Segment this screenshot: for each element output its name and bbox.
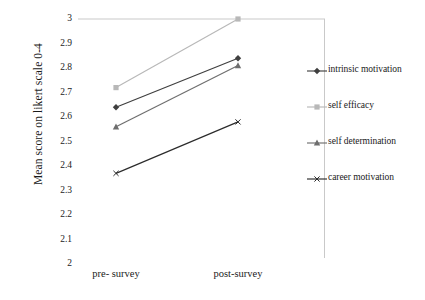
y-tick-label: 2.3	[38, 186, 72, 196]
y-tick-label: 2.1	[38, 235, 72, 245]
plot-area	[78, 0, 343, 300]
legend-marker-icon	[306, 99, 328, 111]
data-point-marker	[235, 55, 241, 61]
legend-marker-icon	[306, 135, 328, 147]
y-tick-label: 2.5	[38, 137, 72, 147]
y-tick-label: 2.8	[38, 63, 72, 73]
y-tick-label: 2.7	[38, 88, 72, 98]
y-tick-label: 2.2	[38, 210, 72, 220]
data-point-marker	[113, 171, 118, 176]
legend-marker-icon	[306, 171, 328, 183]
y-axis-tick-labels: 32.92.82.72.62.52.42.32.22.12	[38, 0, 72, 300]
series-career-motivation	[113, 119, 240, 176]
legend-label: self determination	[328, 136, 396, 146]
data-point-marker	[113, 123, 119, 129]
data-point-marker	[235, 119, 240, 124]
y-tick-label: 3	[38, 14, 72, 24]
data-point-marker	[314, 67, 320, 73]
x-tick-label: post-survey	[214, 268, 263, 279]
series-line	[116, 19, 238, 88]
legend-label: career motivation	[328, 172, 394, 182]
plot-svg	[78, 0, 343, 300]
data-point-marker	[314, 104, 319, 109]
x-tick-label: pre- survey	[92, 268, 140, 279]
chart-figure: Mean score on likert scale 0-4 32.92.82.…	[0, 0, 425, 300]
data-point-marker	[235, 62, 241, 68]
y-tick-label: 2.9	[38, 39, 72, 49]
y-tick-label: 2.6	[38, 112, 72, 122]
series-self-efficacy	[113, 16, 240, 90]
legend-item[interactable]: self efficacy	[306, 92, 425, 117]
series-intrinsic-motivation	[113, 55, 241, 110]
legend-label: intrinsic motivation	[328, 64, 402, 74]
data-point-marker	[113, 104, 119, 110]
series-line	[116, 66, 238, 127]
series-line	[116, 122, 238, 173]
legend-item[interactable]: self determination	[306, 128, 425, 153]
data-point-marker	[113, 85, 118, 90]
series-self-determination	[113, 62, 241, 129]
legend-label: self efficacy	[328, 100, 374, 110]
y-tick-label: 2.4	[38, 161, 72, 171]
series-line	[116, 58, 238, 107]
legend-item[interactable]: career motivation	[306, 164, 425, 189]
chart-legend: intrinsic motivationself efficacyself de…	[306, 56, 425, 200]
legend-item[interactable]: intrinsic motivation	[306, 56, 425, 81]
legend-marker-icon	[306, 63, 328, 75]
y-tick-label: 2	[38, 259, 72, 269]
data-point-marker	[235, 16, 240, 21]
